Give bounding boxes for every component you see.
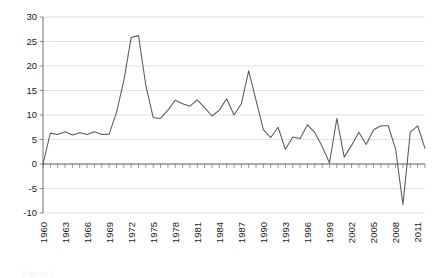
x-tick-label: 1978 xyxy=(170,222,181,243)
x-tick-label: 2008 xyxy=(390,222,401,243)
y-tick-label: 30 xyxy=(26,11,37,22)
x-tick-labels: 1960196319661969197219751978198119841987… xyxy=(38,222,424,243)
y-tick-label: 15 xyxy=(26,85,37,96)
y-tick-label: 25 xyxy=(26,36,37,47)
y-tick-label: 0 xyxy=(32,158,37,169)
x-tick-label: 1963 xyxy=(60,222,71,243)
figure-caption: Figure 1. xyxy=(22,268,56,278)
series-polyline xyxy=(43,36,425,205)
x-tick-label: 1993 xyxy=(280,222,291,243)
line-chart: 302520151050-5-10 1960196319661969197219… xyxy=(0,0,443,278)
chart-container: 302520151050-5-10 1960196319661969197219… xyxy=(0,0,443,278)
x-tick-label: 1966 xyxy=(82,222,93,243)
y-tick-label: 5 xyxy=(32,134,37,145)
y-tick-label: -10 xyxy=(23,207,37,218)
x-tick-label: 1987 xyxy=(236,222,247,243)
y-axis xyxy=(40,17,44,213)
y-tick-label: 10 xyxy=(26,109,37,120)
x-tick-label: 1990 xyxy=(258,222,269,243)
x-tick-label: 1975 xyxy=(148,222,159,243)
x-tick-label: 1984 xyxy=(214,222,225,243)
x-tick-label: 2002 xyxy=(346,222,357,243)
y-tick-labels: 302520151050-5-10 xyxy=(23,11,37,218)
data-series-line xyxy=(43,36,425,205)
x-tick-label: 1999 xyxy=(324,222,335,243)
y-tick-label: -5 xyxy=(29,183,37,194)
x-tick-label: 2011 xyxy=(412,222,423,242)
y-tick-label: 20 xyxy=(26,60,37,71)
x-tick-label: 2005 xyxy=(368,222,379,243)
x-tick-label: 1969 xyxy=(104,222,115,243)
x-tick-label: 1996 xyxy=(302,222,313,243)
x-tick-label: 1972 xyxy=(126,222,137,243)
x-tick-label: 1981 xyxy=(192,222,203,243)
x-axis-ticks xyxy=(43,164,425,168)
x-tick-label: 1960 xyxy=(38,222,49,243)
